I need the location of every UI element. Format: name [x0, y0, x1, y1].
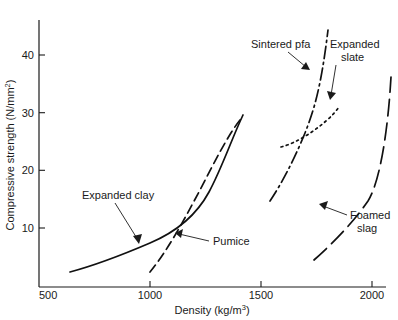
leader-arrow-pumice	[175, 229, 183, 238]
chart-annotations: Expanded clay Pumice Sintered pfa Expand…	[82, 38, 390, 247]
leader-line-foamed-slag	[323, 206, 347, 215]
y-axis-title-base: Compressive strength (N/mm	[4, 87, 16, 230]
x-tick-label-1500: 1500	[249, 289, 273, 301]
leader-line-expanded-clay	[115, 203, 138, 240]
y-tick-label-30: 30	[22, 107, 34, 119]
leader-line-sintered-pfa	[288, 52, 306, 67]
chart-figure: 40 30 20 10 500 1000 1500 2000 Density (…	[0, 0, 398, 320]
x-tick-label-1000: 1000	[138, 289, 162, 301]
series-label-expanded-clay: Expanded clay	[82, 189, 155, 201]
y-tick-label-40: 40	[22, 49, 34, 61]
x-tick-label-500: 500	[39, 289, 57, 301]
x-axis-title: Density (kg/m3)	[174, 303, 249, 316]
y-axis-ticks	[39, 55, 45, 228]
series-label-expanded-slate-line1: Expanded	[330, 38, 380, 50]
y-axis-title-tail: )	[4, 80, 16, 84]
series-curve-foamed-slag	[314, 77, 391, 260]
series-label-foamed-slag-line2: slag	[357, 222, 377, 234]
leader-arrow-foamed-slag	[319, 201, 328, 210]
leader-line-pumice	[179, 234, 209, 241]
y-tick-label-10: 10	[22, 222, 34, 234]
series-label-pumice: Pumice	[213, 235, 250, 247]
y-axis-tick-labels: 40 30 20 10	[22, 49, 34, 234]
x-axis-title-base: Density (kg/m	[174, 304, 241, 316]
leader-line-expanded-slate	[331, 65, 336, 95]
x-axis-tick-labels: 500 1000 1500 2000	[39, 289, 384, 301]
leader-arrow-sintered-pfa	[301, 62, 310, 70]
x-axis-ticks	[150, 281, 372, 287]
y-axis-title: Compressive strength (N/mm2)	[3, 80, 16, 231]
x-axis-title-tail: )	[246, 304, 250, 316]
series-label-foamed-slag-line1: Foamed	[350, 209, 390, 221]
x-tick-label-2000: 2000	[360, 289, 384, 301]
leader-arrow-expanded-slate	[327, 91, 336, 100]
leader-arrow-expanded-clay	[133, 234, 142, 244]
series-label-sintered-pfa: Sintered pfa	[251, 38, 311, 50]
series-curve-sintered-pfa	[270, 30, 328, 201]
density-vs-strength-chart: 40 30 20 10 500 1000 1500 2000 Density (…	[0, 0, 398, 320]
series-label-expanded-slate-line2: slate	[341, 51, 364, 63]
series-curve-pumice	[150, 120, 240, 272]
series-curve-expanded-slate	[281, 107, 339, 147]
y-tick-label-20: 20	[22, 164, 34, 176]
